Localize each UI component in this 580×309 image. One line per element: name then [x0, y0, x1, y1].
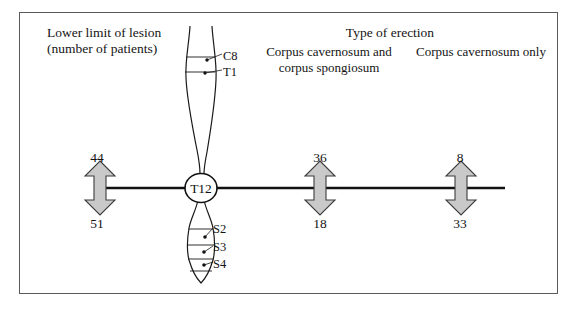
segment-label-s4: S4: [213, 257, 226, 272]
lower-segment-markers: [187, 228, 215, 271]
column-header-corpus-cavernosum-and-spongiosum: Corpus cavernosum and corpus spongiosum: [253, 44, 405, 75]
t12-marker-label: T12: [190, 181, 212, 196]
count-below-lesion-group: 51: [77, 216, 117, 232]
segment-label-s3: S3: [213, 240, 226, 255]
page-title-type-of-erection: Type of erection: [280, 25, 500, 41]
segment-label-s2: S2: [213, 222, 226, 237]
figure-root: T12 Lower limit of lesion (number of pat…: [0, 0, 580, 309]
page-title-lower-limit: Lower limit of lesion (number of patient…: [47, 25, 161, 57]
count-below-corpus-both-group: 18: [300, 216, 340, 232]
count-below-corpus-only-group: 33: [440, 216, 480, 232]
count-above-corpus-only-group: 8: [440, 150, 480, 166]
segment-label-t1: T1: [223, 65, 237, 80]
count-above-corpus-both-group: 36: [300, 150, 340, 166]
column-header-corpus-cavernosum-only: Corpus cavernosum only: [405, 44, 557, 59]
count-above-lesion-group: 44: [77, 150, 117, 166]
segment-label-c8: C8: [223, 49, 238, 64]
spinal-cord-upper: [186, 26, 216, 174]
